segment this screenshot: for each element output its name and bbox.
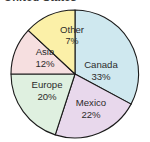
pie-label-mexico-name: Mexico <box>76 97 106 108</box>
pie-label-europe-value: 20% <box>37 91 57 102</box>
pie-label-mexico-value: 22% <box>81 109 101 120</box>
pie-label-other-name: Other <box>60 24 85 35</box>
chart-title: United States <box>4 0 146 3</box>
pie-label-canada-name: Canada <box>84 59 118 70</box>
pie-label-asia-name: Asia <box>36 46 55 57</box>
pie-chart-plot-area: Canada 33% Mexico 22% Europe 20% Asia 12… <box>9 8 141 140</box>
pie-label-asia-value: 12% <box>35 58 55 69</box>
pie-label-other-value: 7% <box>65 36 78 46</box>
pie-svg: Canada 33% Mexico 22% Europe 20% Asia 12… <box>9 8 141 140</box>
pie-chart-figure: United States Canada 33% Mexico 22% Euro… <box>0 0 150 142</box>
pie-label-europe-name: Europe <box>32 79 63 90</box>
pie-label-canada-value: 33% <box>91 71 111 82</box>
